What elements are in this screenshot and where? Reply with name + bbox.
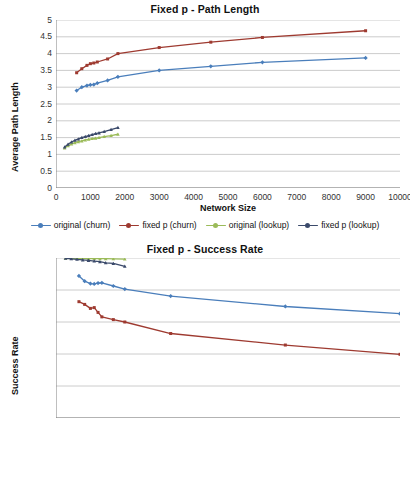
legend-label-original-churn: original (churn) — [54, 220, 111, 230]
data-point — [93, 306, 96, 309]
data-point — [92, 62, 95, 65]
legend-swatch-fixed-p-lookup — [298, 221, 318, 229]
x-tick-label: 0 — [38, 192, 74, 202]
data-point — [85, 64, 88, 67]
data-point — [96, 281, 100, 285]
legend-item-fixed-p-lookup[interactable]: fixed p (lookup) — [298, 220, 379, 230]
y-tick-label: 1.5 — [14, 132, 52, 142]
data-point — [106, 57, 109, 60]
series-line-original-churn- — [77, 58, 366, 91]
data-point — [364, 29, 367, 32]
x-tick-label: 3000 — [141, 192, 177, 202]
data-point — [169, 294, 173, 298]
legend-item-fixed-p-churn[interactable]: fixed p (churn) — [119, 220, 196, 230]
data-point — [89, 307, 92, 310]
data-point — [209, 64, 213, 68]
plot-area-success-rate — [56, 258, 400, 418]
x-tick-label: 8000 — [313, 192, 349, 202]
y-tick-label: 5 — [14, 15, 52, 25]
y-axis-label-success-rate: Success Rate — [10, 336, 20, 395]
chart-path-length: Fixed p - Path Length Average Path Lengt… — [0, 0, 410, 240]
path-length-svg — [56, 20, 400, 188]
y-tick-label: 2.5 — [14, 99, 52, 109]
x-tick-label: 7000 — [279, 192, 315, 202]
legend-swatch-fixed-p-churn — [119, 221, 139, 229]
data-point — [157, 68, 161, 72]
y-tick-label: 4.5 — [14, 31, 52, 41]
legend-label-fixed-p-churn: fixed p (churn) — [142, 220, 196, 230]
data-point — [88, 281, 92, 285]
chart-title-success-rate: Fixed p - Success Rate — [0, 243, 410, 255]
data-point — [283, 304, 287, 308]
data-point — [209, 41, 212, 44]
y-tick-label: 4 — [14, 48, 52, 58]
data-point — [398, 312, 400, 316]
series-line-original-churn- — [79, 276, 400, 314]
legend-swatch-original-lookup — [206, 221, 226, 229]
x-tick-label: 10000 — [382, 192, 410, 202]
data-point — [100, 315, 103, 318]
data-point — [169, 332, 172, 335]
chart-title-path-length: Fixed p - Path Length — [0, 3, 410, 15]
data-point — [77, 300, 80, 303]
data-point — [92, 282, 96, 286]
data-point — [123, 321, 126, 324]
chart-success-rate: Fixed p - Success Rate Success Rate 0.90… — [0, 240, 410, 480]
x-tick-label: 9000 — [348, 192, 384, 202]
x-tick-label: 6000 — [244, 192, 280, 202]
data-point — [261, 36, 264, 39]
y-tick-label: 3.5 — [14, 65, 52, 75]
success-rate-svg — [56, 258, 400, 418]
data-point — [83, 303, 86, 306]
data-point — [111, 284, 115, 288]
x-tick-label: 1000 — [72, 192, 108, 202]
y-tick-label: 3 — [14, 82, 52, 92]
data-point — [100, 281, 104, 285]
data-point — [284, 344, 287, 347]
x-axis-label-path-length: Network Size — [56, 203, 400, 213]
data-point — [105, 78, 109, 82]
data-point — [116, 75, 120, 79]
data-point — [88, 83, 92, 87]
legend-swatch-original-churn — [31, 221, 51, 229]
x-tick-label: 2000 — [107, 192, 143, 202]
series-line-fixed-p-churn- — [79, 302, 400, 355]
data-point — [123, 287, 127, 291]
legend-item-original-churn[interactable]: original (churn) — [31, 220, 111, 230]
y-tick-label: 0 — [14, 183, 52, 193]
x-tick-label: 4000 — [176, 192, 212, 202]
y-tick-label: 0.5 — [14, 166, 52, 176]
data-point — [75, 71, 78, 74]
data-point — [89, 62, 92, 65]
data-point — [116, 52, 119, 55]
legend-label-original-lookup: original (lookup) — [229, 220, 289, 230]
data-point — [363, 56, 367, 60]
data-point — [158, 46, 161, 49]
data-point — [97, 311, 100, 314]
x-tick-label: 5000 — [210, 192, 246, 202]
legend-item-original-lookup[interactable]: original (lookup) — [206, 220, 289, 230]
plot-area-path-length — [56, 20, 400, 188]
data-point — [96, 61, 99, 64]
data-point — [260, 60, 264, 64]
y-tick-label: 2 — [14, 115, 52, 125]
data-point — [112, 318, 115, 321]
legend-label-fixed-p-lookup: fixed p (lookup) — [321, 220, 379, 230]
y-tick-label: 1 — [14, 149, 52, 159]
data-point — [399, 353, 401, 356]
data-point — [80, 67, 83, 70]
legend-path-length: original (churn) fixed p (churn) origina… — [0, 220, 410, 230]
